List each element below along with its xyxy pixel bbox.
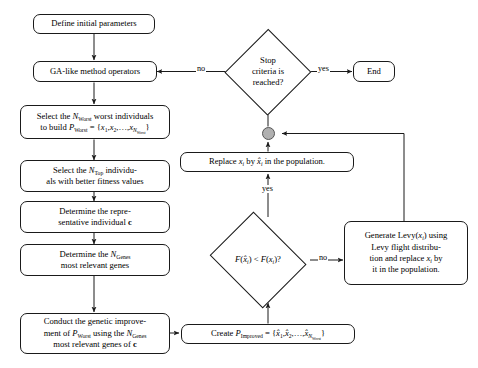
node-determine-representative-label: Determine the repre-sentative individual… xyxy=(58,206,132,229)
node-end[interactable]: End xyxy=(353,61,395,82)
merge-junction-node xyxy=(262,127,275,140)
node-replace-in-population-label: Replace xi by x̂i in the population. xyxy=(209,156,325,167)
node-determine-representative[interactable]: Determine the repre-sentative individual… xyxy=(20,201,170,233)
edge-label-fitness-yes: yes xyxy=(261,185,274,193)
edge-label-stop-no: no xyxy=(196,65,206,73)
flowchart-canvas: Define initial parameters GA-like method… xyxy=(0,0,478,368)
node-select-top-individuals[interactable]: Select the NTop individu-als with better… xyxy=(20,160,170,192)
node-ga-like-method-operators[interactable]: GA-like method operators xyxy=(33,61,157,82)
node-determine-relevant-genes-label: Determine the NGenesmost relevant genes xyxy=(60,249,131,272)
node-define-initial-parameters-label: Define initial parameters xyxy=(51,18,136,29)
node-ga-like-method-operators-label: GA-like method operators xyxy=(50,66,140,77)
edge-label-fitness-no: no xyxy=(318,254,328,262)
node-select-worst-individuals-label: Select the NWorst worst individualsto bu… xyxy=(37,111,154,134)
node-end-label: End xyxy=(367,66,381,77)
node-replace-in-population[interactable]: Replace xi by x̂i in the population. xyxy=(180,152,354,172)
node-conduct-genetic-improvement[interactable]: Conduct the genetic improve-ment of PWor… xyxy=(20,313,170,354)
decision-fitness-compare-label: F(x̂i) < F(xi)? xyxy=(235,254,281,265)
edge-levy-to-merge xyxy=(282,134,404,222)
node-create-p-improved[interactable]: Create PImproved = {x̂1,x̂2,…,x̂NWorst} xyxy=(181,324,355,344)
edge-label-stop-yes: yes xyxy=(317,65,330,73)
decision-stop-criteria[interactable]: Stopcriteria isreached? xyxy=(225,28,311,115)
node-create-p-improved-label: Create PImproved = {x̂1,x̂2,…,x̂NWorst} xyxy=(211,328,325,339)
decision-fitness-compare[interactable]: F(x̂i) < F(xi)? xyxy=(205,216,311,304)
node-define-initial-parameters[interactable]: Define initial parameters xyxy=(33,14,155,34)
node-conduct-genetic-improvement-label: Conduct the genetic improve-ment of PWor… xyxy=(44,316,147,350)
node-generate-levy[interactable]: Generate Levy(xi) usingLevy flight distr… xyxy=(344,221,468,285)
node-generate-levy-label: Generate Levy(xi) usingLevy flight distr… xyxy=(365,230,448,275)
node-select-worst-individuals[interactable]: Select the NWorst worst individualsto bu… xyxy=(20,105,170,139)
node-select-top-individuals-label: Select the NTop individu-als with better… xyxy=(46,165,143,188)
node-determine-relevant-genes[interactable]: Determine the NGenesmost relevant genes xyxy=(20,244,170,276)
decision-stop-criteria-label: Stopcriteria isreached? xyxy=(252,55,284,89)
